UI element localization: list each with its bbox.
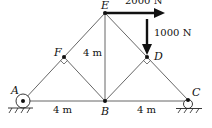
joints <box>21 11 190 103</box>
member-fb <box>64 57 105 101</box>
dimension-height-label: 4 m <box>83 47 103 58</box>
node-label-a: A <box>10 84 19 97</box>
joint-f <box>62 55 66 59</box>
truss-diagram: 2000 N 1000 N E F D A B C 4 m 4 m 4 m <box>0 0 212 128</box>
joint-d <box>145 55 149 59</box>
right-angle-d <box>144 61 151 65</box>
joint-c <box>186 98 190 102</box>
joint-a <box>21 99 25 103</box>
dimension-bc-label: 4 m <box>137 104 157 115</box>
right-angle-markers <box>61 61 151 65</box>
member-ed <box>105 13 147 57</box>
node-label-e: E <box>100 0 109 12</box>
load-vertical-d <box>142 19 152 55</box>
load-horizontal-label: 2000 N <box>125 0 163 6</box>
load-horizontal-e <box>105 8 165 18</box>
member-dc <box>147 57 188 100</box>
member-db <box>105 57 147 101</box>
node-label-c: C <box>192 86 201 99</box>
node-label-b: B <box>100 105 109 118</box>
dimension-ab-label: 4 m <box>53 104 73 115</box>
node-label-f: F <box>53 46 62 59</box>
node-label-d: D <box>153 50 163 63</box>
right-angle-f <box>61 61 68 65</box>
load-vertical-label: 1000 N <box>154 27 192 38</box>
member-af <box>23 57 64 101</box>
joint-b <box>103 99 107 103</box>
